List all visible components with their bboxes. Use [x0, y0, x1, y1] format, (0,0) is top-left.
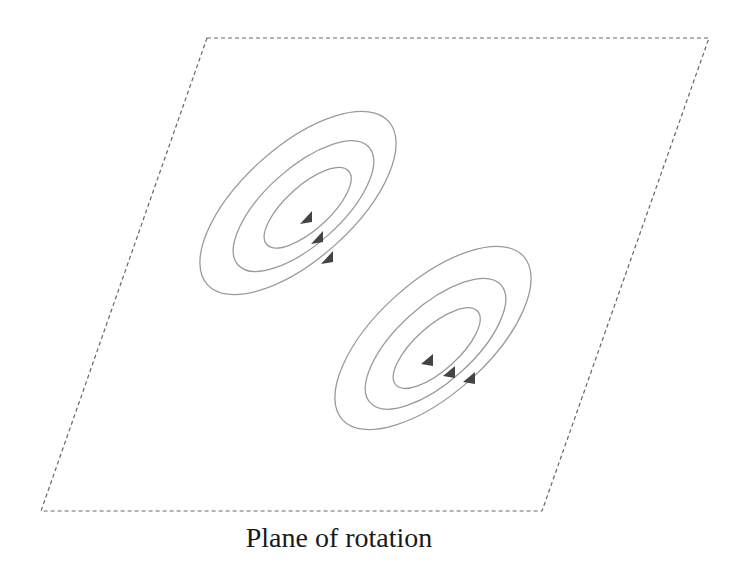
lower-orbit-middle	[345, 257, 527, 431]
upper-orbit-inner	[252, 155, 363, 261]
upper-orbit-outer	[170, 80, 426, 327]
diagram-caption: Plane of rotation	[0, 522, 678, 554]
rotation-plane	[41, 38, 709, 511]
plane-of-rotation-diagram	[0, 0, 743, 574]
upper-orbit-middle	[213, 119, 395, 293]
arrow-down-icon	[321, 251, 333, 264]
upper-vortex	[170, 80, 426, 327]
arrow-up-icon	[421, 354, 433, 366]
lower-arrows	[421, 354, 475, 384]
lower-vortex	[305, 215, 561, 462]
arrow-down-icon	[311, 231, 323, 244]
arrow-up-icon	[443, 366, 455, 378]
arrow-up-icon	[463, 372, 475, 384]
arrow-down-icon	[300, 211, 312, 224]
lower-orbit-outer	[305, 215, 561, 462]
lower-orbit-inner	[381, 295, 492, 401]
